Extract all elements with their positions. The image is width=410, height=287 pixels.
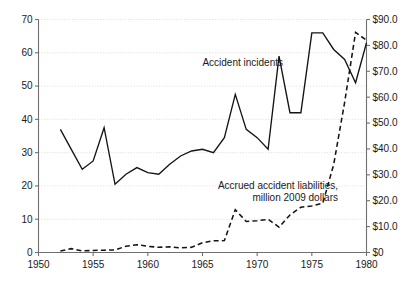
tick-label-bottom: 1975 xyxy=(301,259,324,270)
tick-label-right: $90.0 xyxy=(373,14,398,25)
tick-label-right: $50.0 xyxy=(373,117,398,128)
tick-label-left: 60 xyxy=(21,47,33,58)
tick-label-left: 70 xyxy=(21,14,33,25)
tick-marks xyxy=(35,20,370,257)
axis-tick-labels: 010203040506070$0$10.0$20.0$30.0$40.0$50… xyxy=(21,14,398,270)
tick-label-bottom: 1960 xyxy=(137,259,160,270)
tick-label-right: $30.0 xyxy=(373,169,398,180)
tick-label-right: $10.0 xyxy=(373,221,398,232)
tick-label-right: $40.0 xyxy=(373,143,398,154)
annotation-liabilities-line1: Accrued accident liabilities, xyxy=(218,180,338,191)
tick-label-left: 40 xyxy=(21,114,33,125)
tick-label-left: 30 xyxy=(21,147,33,158)
tick-label-bottom: 1980 xyxy=(355,259,378,270)
tick-label-left: 20 xyxy=(21,180,33,191)
tick-label-right: $80.0 xyxy=(373,40,398,51)
tick-label-bottom: 1965 xyxy=(191,259,214,270)
tick-label-right: $70.0 xyxy=(373,66,398,77)
tick-label-right: $60.0 xyxy=(373,92,398,103)
tick-label-left: 0 xyxy=(27,247,33,258)
tick-label-bottom: 1970 xyxy=(246,259,269,270)
tick-label-left: 10 xyxy=(21,214,33,225)
tick-label-bottom: 1955 xyxy=(82,259,105,270)
chart-figure: 010203040506070$0$10.0$20.0$30.0$40.0$50… xyxy=(0,0,410,287)
axes xyxy=(39,20,367,253)
tick-label-bottom: 1950 xyxy=(27,259,50,270)
annotation-liabilities-line2: million 2009 dollars xyxy=(252,192,338,203)
tick-label-left: 50 xyxy=(21,80,33,91)
tick-label-right: $0 xyxy=(373,247,385,258)
chart-canvas: 010203040506070$0$10.0$20.0$30.0$40.0$50… xyxy=(0,0,410,287)
tick-label-right: $20.0 xyxy=(373,195,398,206)
annotation-accident-incidents: Accident incidents xyxy=(202,57,283,68)
series-line-incidents xyxy=(60,33,366,184)
